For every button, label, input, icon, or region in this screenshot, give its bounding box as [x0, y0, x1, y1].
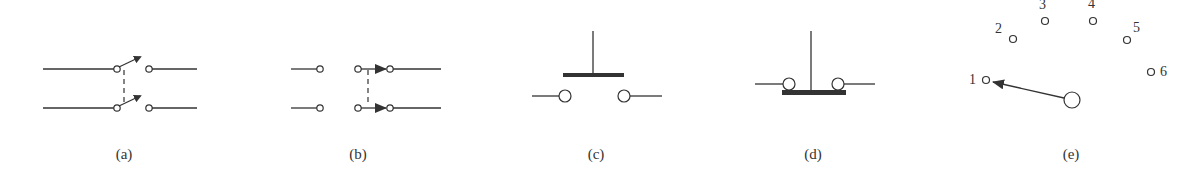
panel-c-pushbutton-no: (c)	[532, 31, 662, 163]
terminal	[355, 105, 361, 111]
panel-label: (b)	[349, 146, 367, 163]
rotor-pivot	[1064, 92, 1080, 108]
panel-a-dpst-switch: (a)	[43, 57, 197, 163]
blade-arrow-icon	[119, 96, 140, 106]
panel-label: (a)	[116, 146, 133, 163]
position-label: 6	[1160, 64, 1167, 79]
switch-diagrams: (a) (b) (c) (d)	[0, 0, 1201, 173]
rotor-arrow-icon	[993, 82, 1064, 98]
position-contact	[1010, 36, 1017, 43]
terminal	[146, 105, 152, 111]
panel-d-pushbutton-nc: (d)	[755, 31, 875, 163]
position-label: 5	[1133, 20, 1140, 35]
terminal	[387, 66, 393, 72]
position-label: 3	[1039, 0, 1046, 12]
panel-e-rotary-switch: 1 2 3 4 5 6 (e)	[969, 0, 1167, 163]
position-contact	[1148, 69, 1155, 76]
push-bar	[782, 90, 846, 95]
panel-b-slide-switch: (b)	[291, 66, 441, 163]
position-contact	[1124, 37, 1131, 44]
position-contact	[983, 77, 990, 84]
position-contact	[1042, 18, 1049, 25]
terminal	[387, 105, 393, 111]
terminal	[317, 105, 323, 111]
push-bar	[563, 73, 624, 77]
panel-label: (e)	[1063, 146, 1080, 163]
terminal	[618, 90, 630, 102]
panel-label: (d)	[804, 146, 822, 163]
panel-label: (c)	[588, 146, 605, 163]
terminal	[146, 66, 152, 72]
position-label: 1	[969, 72, 976, 87]
terminal	[832, 78, 844, 90]
terminal	[783, 78, 795, 90]
terminal	[559, 90, 571, 102]
terminal	[317, 66, 323, 72]
position-label: 4	[1088, 0, 1095, 11]
terminal	[355, 66, 361, 72]
position-label: 2	[995, 21, 1002, 36]
position-contact	[1090, 18, 1097, 25]
blade-arrow-icon	[119, 57, 140, 67]
